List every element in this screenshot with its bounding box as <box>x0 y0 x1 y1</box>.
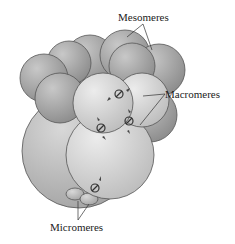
label-mesomeres: Mesomeres <box>118 11 169 23</box>
label-micromeres: Micromeres <box>50 221 103 233</box>
embryo-diagram <box>0 0 235 244</box>
label-macromeres: Macromeres <box>165 88 220 100</box>
